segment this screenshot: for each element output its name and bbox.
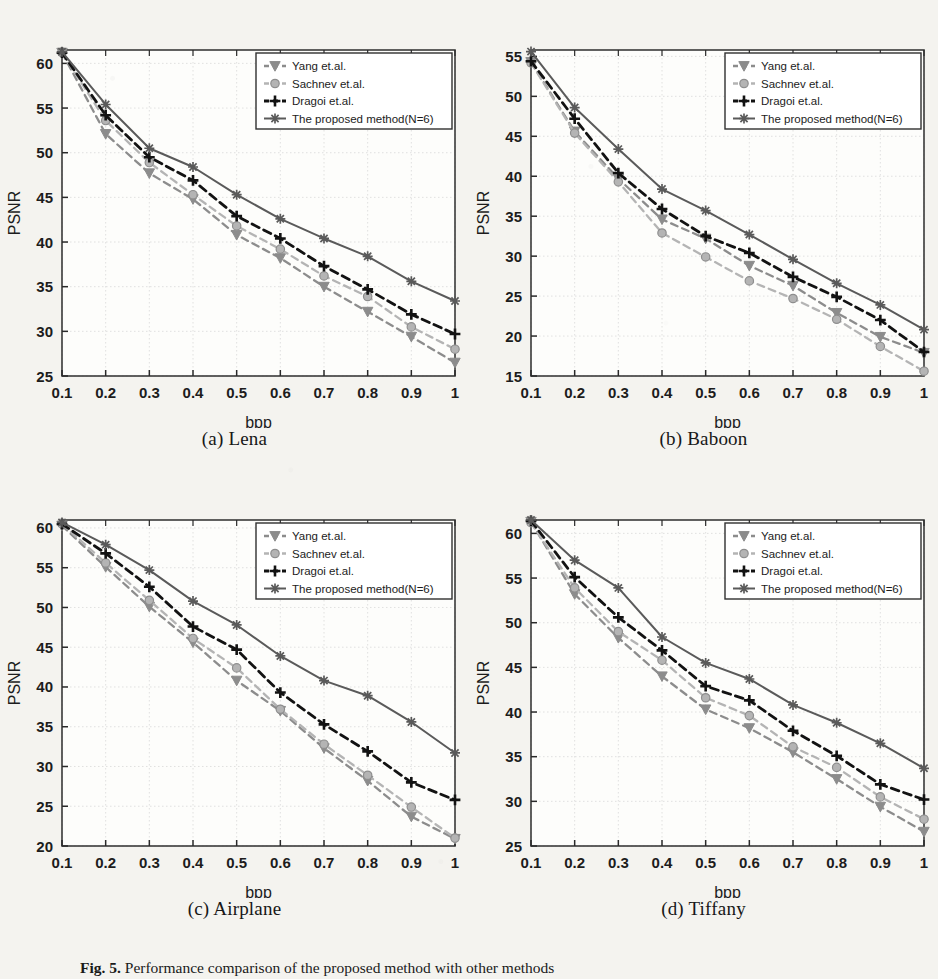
legend-marker-icon [740,79,748,87]
figure-caption-prefix: Fig. 5. [80,959,121,976]
x-tick-label: 0.4 [652,854,674,871]
y-tick-label: 45 [36,189,53,206]
x-tick-label: 0.9 [401,854,422,871]
x-tick-label: 0.1 [52,854,73,871]
y-tick-label: 25 [36,798,53,815]
x-tick-label: 0.5 [695,384,716,401]
x-tick-label: 0.4 [183,854,205,871]
y-tick-label: 50 [505,88,522,105]
plot-area-lena: 25303540455055600.10.20.30.40.50.60.70.8… [0,8,469,428]
legend-label: Yang et.al. [292,60,346,72]
legend-marker-icon [271,549,279,557]
x-tick-label: 0.5 [226,854,247,871]
chart-panel-tiffany: 25303540455055600.10.20.30.40.50.60.70.8… [469,478,938,958]
y-tick-label: 35 [505,208,522,225]
x-tick-label: 0.7 [314,384,335,401]
legend-label: Dragoi et.al. [761,565,823,577]
y-tick-label: 35 [36,278,53,295]
y-tick-label: 40 [36,678,53,695]
x-tick-label: 0.3 [139,854,160,871]
legend-label: Yang et.al. [761,60,815,72]
y-axis-title: PSNR [6,661,23,705]
legend-marker-icon [739,584,749,594]
subcaption-tiffany: (d) Tiffany [469,898,938,920]
chart-svg-a: 25303540455055600.10.20.30.40.50.60.70.8… [0,8,469,428]
plot-area-airplane: 2025303540455055600.10.20.30.40.50.60.70… [0,478,469,898]
subcaption-baboon: (b) Baboon [469,428,938,450]
x-tick-label: 0.2 [564,854,585,871]
y-tick-label: 30 [505,793,522,810]
x-tick-label: 1 [920,384,928,401]
y-axis-title: PSNR [475,661,492,705]
legend-label: Dragoi et.al. [292,565,354,577]
x-tick-label: 0.1 [521,384,542,401]
subcaption-lena: (a) Lena [0,428,469,450]
chart-legend: Yang et.al.Sachnev et.al.Dragoi et.al.Th… [256,523,452,599]
y-tick-label: 50 [505,614,522,631]
x-tick-label: 0.7 [783,854,804,871]
x-tick-label: 0.6 [270,384,291,401]
x-tick-label: 0.5 [695,854,716,871]
x-tick-label: 0.8 [826,854,847,871]
y-tick-label: 35 [36,718,53,735]
chart-legend: Yang et.al.Sachnev et.al.Dragoi et.al.Th… [725,523,921,599]
chart-legend: Yang et.al.Sachnev et.al.Dragoi et.al.Th… [256,53,452,129]
figure-caption-text: Performance comparison of the proposed m… [125,959,555,976]
x-tick-label: 0.8 [357,384,378,401]
x-tick-label: 0.3 [139,384,160,401]
legend-label: The proposed method(N=6) [292,113,434,125]
x-tick-label: 0.3 [608,384,629,401]
y-tick-label: 40 [505,704,522,721]
legend-marker-icon [270,114,280,124]
x-tick-label: 0.2 [95,384,116,401]
y-tick-label: 55 [505,48,522,65]
chart-panel-lena: 25303540455055600.10.20.30.40.50.60.70.8… [0,8,469,488]
legend-label: Yang et.al. [761,530,815,542]
x-tick-label: 0.8 [357,854,378,871]
y-tick-label: 15 [505,368,522,385]
legend-label: The proposed method(N=6) [761,583,903,595]
y-tick-label: 60 [505,525,522,542]
x-tick-label: 0.7 [783,384,804,401]
x-tick-label: 0.7 [314,854,335,871]
y-tick-label: 45 [505,128,522,145]
x-tick-label: 0.6 [270,854,291,871]
y-tick-label: 30 [505,248,522,265]
x-axis-title: bpp [714,414,741,428]
plot-area-tiffany: 25303540455055600.10.20.30.40.50.60.70.8… [469,478,938,898]
chart-svg-d: 25303540455055600.10.20.30.40.50.60.70.8… [469,478,938,898]
y-tick-label: 55 [36,100,53,117]
legend-label: Sachnev et.al. [761,548,834,560]
y-tick-label: 20 [505,328,522,345]
x-axis-title: bpp [245,414,272,428]
figure-container: 25303540455055600.10.20.30.40.50.60.70.8… [0,0,938,979]
x-tick-label: 0.2 [564,384,585,401]
y-tick-label: 35 [505,748,522,765]
x-tick-label: 0.2 [95,854,116,871]
x-tick-label: 0.1 [521,854,542,871]
x-axis-title: bpp [714,884,741,898]
chart-svg-c: 2025303540455055600.10.20.30.40.50.60.70… [0,478,469,898]
x-tick-label: 0.9 [401,384,422,401]
legend-label: Sachnev et.al. [292,548,365,560]
legend-label: Sachnev et.al. [761,78,834,90]
x-tick-label: 0.3 [608,854,629,871]
y-tick-label: 30 [36,323,53,340]
legend-marker-icon [271,79,279,87]
y-tick-label: 40 [36,234,53,251]
y-tick-label: 20 [36,838,53,855]
y-tick-label: 50 [36,144,53,161]
legend-label: Dragoi et.al. [292,95,354,107]
x-tick-label: 0.6 [739,384,760,401]
legend-marker-icon [739,114,749,124]
chart-panel-airplane: 2025303540455055600.10.20.30.40.50.60.70… [0,478,469,958]
legend-label: Sachnev et.al. [292,78,365,90]
chart-svg-b: 1520253035404550550.10.20.30.40.50.60.70… [469,8,938,428]
legend-label: The proposed method(N=6) [292,583,434,595]
legend-marker-icon [740,549,748,557]
x-tick-label: 1 [920,854,928,871]
x-tick-label: 0.5 [226,384,247,401]
y-tick-label: 25 [36,368,53,385]
y-tick-label: 60 [36,519,53,536]
legend-label: The proposed method(N=6) [761,113,903,125]
